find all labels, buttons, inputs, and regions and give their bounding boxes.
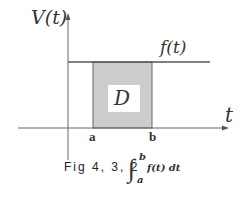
tick-label-b: b — [149, 129, 156, 145]
integral-lower-limit: a — [137, 174, 143, 185]
integral-expression: ∫ b a f(t) dt — [128, 150, 198, 192]
integral-sign-icon: ∫ — [128, 154, 135, 184]
x-axis-label: t — [225, 103, 233, 127]
integral-upper-limit: b — [139, 151, 146, 162]
function-label: f(t) — [160, 37, 186, 57]
tick-label-a: a — [89, 129, 96, 145]
integrand: f(t) dt — [147, 162, 180, 173]
integral-diagram: V(t) f(t) D t a b Fig 4, 3, 2 ∫ b a f(t)… — [0, 0, 249, 200]
region-label: D — [114, 86, 130, 110]
y-axis-label: V(t) — [31, 6, 67, 28]
